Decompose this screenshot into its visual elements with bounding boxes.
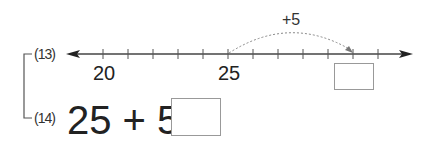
jump-label: +5 <box>282 11 300 29</box>
equation-answer-box[interactable] <box>171 98 221 136</box>
tick-label-20: 20 <box>93 62 115 85</box>
number-line-answer-box[interactable] <box>334 63 374 90</box>
problem-number-13: (13) <box>34 46 55 62</box>
jump-arc <box>229 33 351 53</box>
jump-arrowhead-icon <box>345 46 353 53</box>
tick-label-25: 25 <box>218 62 240 85</box>
bracket-line <box>24 54 32 118</box>
problem-number-14: (14) <box>34 110 55 126</box>
